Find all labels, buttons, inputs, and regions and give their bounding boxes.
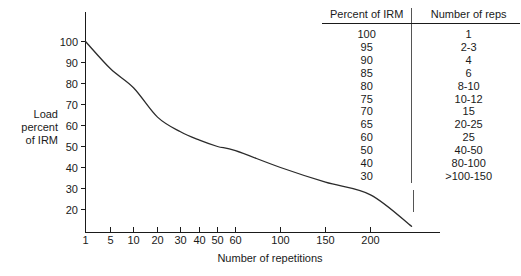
y-axis-title-line: of IRM <box>2 134 58 147</box>
table-row: 904 <box>322 54 520 67</box>
cell-reps: 1 <box>412 24 520 41</box>
cell-percent: 30 <box>322 170 412 183</box>
y-tick-label: 80 <box>52 78 78 90</box>
cell-percent: 40 <box>322 157 412 170</box>
cell-reps: 15 <box>412 105 520 118</box>
y-tick-label: 50 <box>52 141 78 153</box>
cell-reps: 20-25 <box>412 118 520 131</box>
cell-reps: 25 <box>412 131 520 144</box>
cell-reps: 80-100 <box>412 157 520 170</box>
cell-reps: 8-10 <box>412 80 520 93</box>
x-tick-label: 100 <box>266 234 296 246</box>
table-row: 7510-12 <box>322 93 520 106</box>
cell-reps: 6 <box>412 67 520 80</box>
table-row: 30>100-150 <box>322 170 520 183</box>
table-header-row: Percent of IRM Number of reps <box>322 8 520 24</box>
table-divider-extension <box>413 190 414 212</box>
table-row: 1001 <box>322 24 520 41</box>
table-row: 5040-50 <box>322 144 520 157</box>
column-header-reps: Number of reps <box>412 8 520 24</box>
x-tick-label: 200 <box>356 234 386 246</box>
column-header-percent: Percent of IRM <box>322 8 412 24</box>
cell-reps: 40-50 <box>412 144 520 157</box>
cell-percent: 65 <box>322 118 412 131</box>
cell-reps: 2-3 <box>412 41 520 54</box>
cell-percent: 95 <box>322 41 412 54</box>
y-tick-label: 20 <box>52 204 78 216</box>
table-head: Percent of IRM Number of reps <box>322 8 520 24</box>
cell-percent: 80 <box>322 80 412 93</box>
x-axis-title: Number of repetitions <box>170 252 370 265</box>
cell-percent: 70 <box>322 105 412 118</box>
reference-table: Percent of IRM Number of reps 1001952-39… <box>322 8 520 183</box>
cell-reps: 4 <box>412 54 520 67</box>
cell-percent: 60 <box>322 131 412 144</box>
table-row: 6025 <box>322 131 520 144</box>
table-row: 4080-100 <box>322 157 520 170</box>
percent-reps-reference-table: Percent of IRM Number of reps 1001952-39… <box>322 8 520 183</box>
y-tick-label: 100 <box>52 36 78 48</box>
y-tick-label: 90 <box>52 57 78 69</box>
table-row: 856 <box>322 67 520 80</box>
x-tick-label: 150 <box>311 234 341 246</box>
table-row: 6520-25 <box>322 118 520 131</box>
y-tick-label: 30 <box>52 183 78 195</box>
y-axis-ticks <box>81 42 85 210</box>
table-row: 808-10 <box>322 80 520 93</box>
y-axis-title-line: percent <box>2 121 58 134</box>
y-tick-label: 40 <box>52 162 78 174</box>
y-axis-title: Loadpercentof IRM <box>2 108 58 147</box>
cell-percent: 85 <box>322 67 412 80</box>
cell-reps: >100-150 <box>412 170 520 183</box>
x-tick-label: 60 <box>221 234 251 246</box>
cell-percent: 100 <box>322 24 412 41</box>
cell-reps: 10-12 <box>412 93 520 106</box>
table-row: 7015 <box>322 105 520 118</box>
table-body: 1001952-3904856808-107510-1270156520-256… <box>322 24 520 183</box>
x-axis-ticks <box>86 227 371 232</box>
chart-screenshot: Loadpercentof IRM Number of repetitions … <box>0 0 521 276</box>
y-axis-title-line: Load <box>2 108 58 121</box>
cell-percent: 75 <box>322 93 412 106</box>
cell-percent: 90 <box>322 54 412 67</box>
y-tick-label: 70 <box>52 99 78 111</box>
cell-percent: 50 <box>322 144 412 157</box>
table-row: 952-3 <box>322 41 520 54</box>
y-tick-label: 60 <box>52 120 78 132</box>
